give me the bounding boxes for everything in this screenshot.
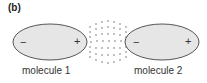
molecule-1-label: molecule 1 <box>22 65 70 76</box>
molecule-2-negative-charge: − <box>133 36 139 48</box>
molecule-1-negative-charge: − <box>20 36 26 48</box>
molecule-2-positive-charge: + <box>185 35 191 47</box>
molecule-1-positive-charge: + <box>74 35 80 47</box>
molecule-2-label: molecule 2 <box>134 65 182 76</box>
field-lines <box>89 20 126 63</box>
